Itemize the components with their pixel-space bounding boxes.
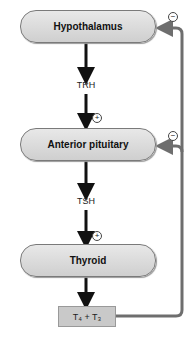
node-t4-t3: T₄ + T₃ — [58, 306, 116, 327]
stimulatory-sign: + — [92, 113, 102, 123]
stimulatory-sign: + — [92, 231, 102, 241]
node-anterior-pituitary: Anterior pituitary — [20, 128, 156, 161]
node-hypothalamus: Hypothalamus — [20, 10, 156, 43]
label-tsh: TSH — [77, 196, 95, 206]
feedback-branch-pituitary — [164, 146, 182, 152]
inhibitory-sign: − — [168, 131, 178, 141]
node-thyroid: Thyroid — [20, 244, 156, 277]
label-trh: TRH — [77, 80, 96, 90]
arrows-layer — [0, 0, 194, 339]
inhibitory-sign: − — [168, 12, 178, 22]
